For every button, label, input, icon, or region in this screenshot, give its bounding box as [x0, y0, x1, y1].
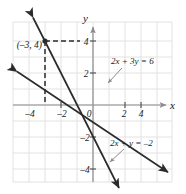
- x-tick-label-neg4: –4: [24, 109, 35, 119]
- graph-figure: x y –4 –2 0 2 4 4 2 –2 –4 (–3, 4) 2x + 3…: [0, 0, 186, 194]
- equation-label-top: 2x + 3y = 6: [111, 56, 154, 66]
- y-tick-label-2: 2: [84, 69, 89, 79]
- x-tick-label-2: 2: [122, 109, 127, 119]
- y-tick-label-4: 4: [84, 37, 89, 47]
- y-tick-label-neg4: –4: [79, 165, 90, 175]
- intersection-point-marker: [42, 38, 47, 43]
- x-tick-label-0: 0: [87, 109, 92, 119]
- x-tick-label-neg2: –2: [56, 109, 67, 119]
- y-tick-label-neg2: –2: [79, 133, 90, 143]
- coordinate-plane: x y –4 –2 0 2 4 4 2 –2 –4 (–3, 4) 2x + 3…: [0, 0, 186, 194]
- point-label-neg3-4: (–3, 4): [17, 40, 42, 51]
- x-axis-label: x: [169, 99, 175, 111]
- y-axis-label: y: [82, 12, 88, 24]
- equation-label-bottom: 2x + y = –2: [110, 138, 153, 148]
- x-tick-label-4: 4: [139, 109, 144, 119]
